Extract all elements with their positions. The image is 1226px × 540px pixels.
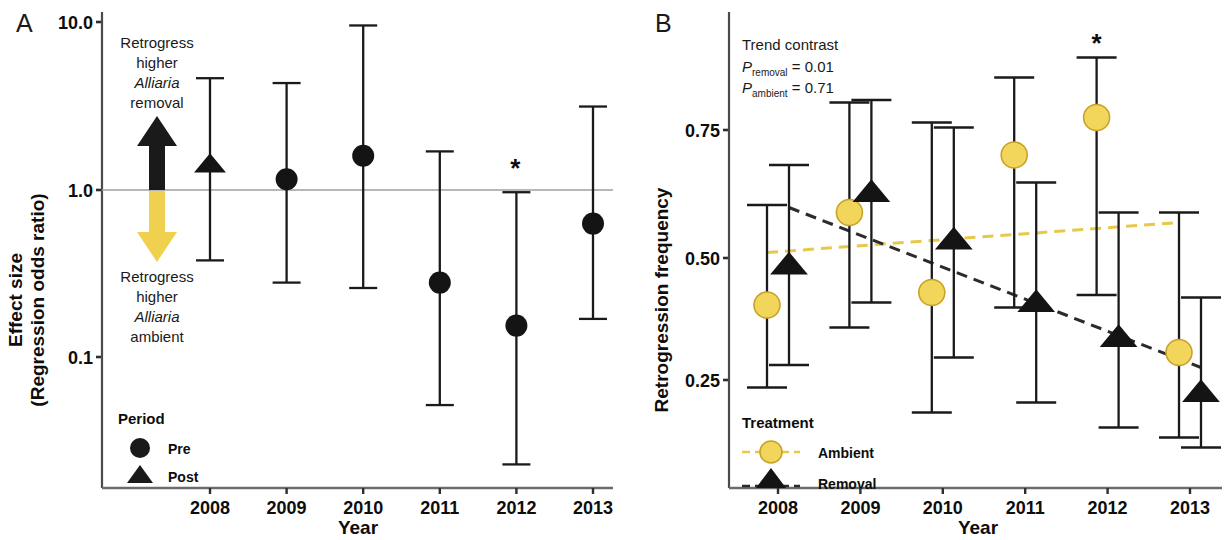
- panel-a-annotation-down-line2: higher: [136, 288, 178, 305]
- panel-b-point-ambient-2009: [836, 200, 862, 226]
- panel-b-legend-label-removal: Removal: [818, 476, 876, 492]
- xtick-label-2008: 2008: [190, 498, 230, 518]
- panel-b-annotation-title: Trend contrast: [742, 36, 839, 53]
- panel-b-point-ambient-2008: [754, 292, 780, 318]
- panel-a-annotation-down-line4: ambient: [130, 328, 184, 345]
- panel-a-annotation-up-line2: higher: [136, 54, 178, 71]
- panel-a-annotation-down-line1: Retrogress: [120, 268, 193, 285]
- panel-a-point-pre-2012: [505, 315, 527, 337]
- panel-a-significance-star-2012: *: [510, 153, 521, 183]
- panel-b-point-ambient-2013: [1166, 340, 1192, 366]
- xtick-label-2012: 2012: [1088, 498, 1128, 518]
- panel-a-ytick-0: 10.0: [58, 13, 93, 33]
- panel-b-ytick-2: 0.25: [685, 371, 720, 391]
- figure-container: A Effect size (Regression odds ratio) 10…: [0, 0, 1226, 540]
- panel-a-ytick-2: 0.1: [68, 348, 93, 368]
- panel-b-p-ambient-sub: ambient: [752, 88, 788, 99]
- panel-b-point-ambient-2012: [1084, 105, 1110, 131]
- panel-b-legend-label-ambient: Ambient: [818, 445, 874, 461]
- panel-a-letter: A: [16, 9, 33, 37]
- panel-a-annotation-up-line4: removal: [130, 94, 183, 111]
- panel-a-ytick-1: 1.0: [68, 181, 93, 201]
- panel-b-xlabel: Year: [958, 517, 999, 538]
- panel-a-annotation-up-line3: Alliaria: [133, 74, 179, 91]
- panel-a-point-pre-2013: [582, 213, 604, 235]
- xtick-label-2010: 2010: [923, 498, 963, 518]
- xtick-label-2011: 2011: [1006, 498, 1045, 518]
- panel-b-ytick-1: 0.50: [685, 249, 720, 269]
- figure-svg: A Effect size (Regression odds ratio) 10…: [0, 0, 1226, 540]
- panel-a-legend-label-post: Post: [168, 469, 199, 485]
- xtick-label-2008: 2008: [758, 498, 798, 518]
- panel-b-ytick-0: 0.75: [685, 121, 720, 141]
- xtick-label-2012: 2012: [496, 498, 536, 518]
- panel-b-significance-star-2012: *: [1092, 28, 1103, 58]
- panel-a-xlabel: Year: [338, 517, 379, 538]
- xtick-label-2010: 2010: [343, 498, 383, 518]
- xtick-label-2013: 2013: [1170, 498, 1210, 518]
- panel-a-annotation-up-line1: Retrogress: [120, 34, 193, 51]
- panel-b-legend-circle-icon: [760, 441, 782, 463]
- panel-a-point-pre-2011: [429, 272, 451, 294]
- panel-b-legend-title: Treatment: [742, 414, 814, 431]
- panel-b-p-removal-sub: removal: [752, 67, 788, 78]
- panel-b-point-ambient-2011: [1001, 142, 1027, 168]
- panel-a-annotation-down-line3: Alliaria: [133, 308, 179, 325]
- panel-a-point-pre-2010: [352, 145, 374, 167]
- panel-b-p-removal-value: = 0.01: [788, 58, 834, 75]
- panel-a-ylabel-line1: Effect size: [5, 253, 26, 347]
- panel-b-ylabel: Retrogression frequency: [651, 187, 672, 412]
- panel-b-annotation: Trend contrast Premoval = 0.01 Pambient …: [742, 36, 839, 99]
- xtick-label-2011: 2011: [420, 498, 459, 518]
- panel-b-letter: B: [655, 9, 672, 37]
- panel-a-point-pre-2009: [276, 168, 298, 190]
- panel-a-legend-circle-icon: [130, 438, 150, 458]
- xtick-label-2009: 2009: [840, 498, 880, 518]
- panel-a-ylabel-line2: (Regression odds ratio): [27, 193, 48, 406]
- xtick-label-2009: 2009: [267, 498, 307, 518]
- xtick-label-2013: 2013: [573, 498, 613, 518]
- panel-a-legend-title: Period: [118, 410, 165, 427]
- panel-b-p-ambient-value: = 0.71: [788, 79, 834, 96]
- panel-b-p-ambient-prefix: P: [742, 79, 752, 96]
- panel-b-p-removal-prefix: P: [742, 58, 752, 75]
- panel-a-legend-label-pre: Pre: [168, 441, 191, 457]
- panel-b-point-ambient-2010: [919, 280, 945, 306]
